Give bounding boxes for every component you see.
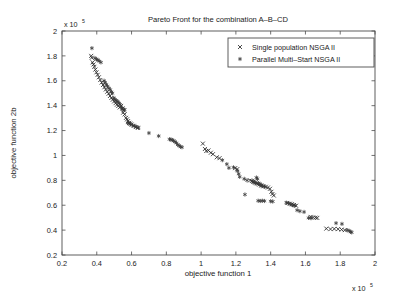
- y-tick-label: 2: [53, 27, 57, 36]
- chart-title: Pareto Front for the combination A–B–CD: [148, 15, 289, 24]
- x-exponent-base: x 10: [352, 284, 366, 293]
- y-exponent-power: 5: [82, 18, 85, 24]
- x-tick-label: 1.2: [231, 259, 241, 268]
- x-tick-label: 0.6: [126, 259, 136, 268]
- y-tick-label: 1.6: [47, 76, 57, 85]
- y-tick-label: 0.8: [47, 176, 57, 185]
- x-tick-label: 2: [373, 259, 377, 268]
- x-exponent-power: 5: [370, 282, 373, 288]
- x-tick-label: 1: [199, 259, 203, 268]
- x-tick-label: 0.8: [161, 259, 171, 268]
- legend-label-single: Single population NSGA II: [252, 43, 335, 52]
- x-tick-label: 1.6: [300, 259, 310, 268]
- x-axis-label: objective function 1: [185, 269, 252, 278]
- y-tick-label: 0.6: [47, 201, 57, 210]
- y-tick-label: 1.2: [47, 126, 57, 135]
- y-exponent-base: x 10: [64, 20, 78, 29]
- chart-figure: Pareto Front for the combination A–B–CD …: [0, 0, 406, 303]
- chart-legend: Single population NSGA II Parallel Multi…: [228, 38, 374, 67]
- pareto-front-scatter-plot: Pareto Front for the combination A–B–CD …: [0, 0, 406, 303]
- y-tick-label: 1.4: [47, 101, 57, 110]
- x-tick-label: 1.8: [335, 259, 345, 268]
- x-tick-label: 0.4: [92, 259, 102, 268]
- y-axis-label: objective function 2b: [9, 107, 18, 179]
- legend-label-parallel: Parallel Multi–Start NSGA II: [252, 55, 340, 64]
- y-tick-label: 1.8: [47, 52, 57, 61]
- y-tick-label: 0.4: [47, 226, 57, 235]
- x-tick-label: 1.4: [266, 259, 276, 268]
- y-tick-label: 1: [53, 151, 57, 160]
- y-tick-label: 0.2: [47, 251, 57, 260]
- x-tick-label: 0.2: [57, 259, 67, 268]
